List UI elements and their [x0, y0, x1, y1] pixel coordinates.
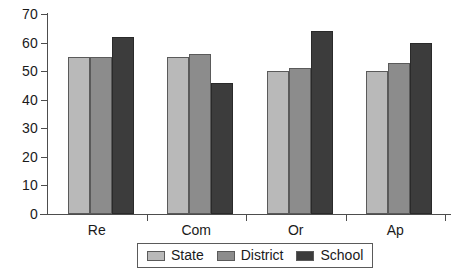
legend-entry-school: School	[296, 248, 363, 263]
bar-com-district	[189, 54, 211, 214]
x-tick-1	[147, 215, 148, 221]
y-tick-label-70: 70	[0, 7, 38, 21]
bar-re-state	[68, 57, 90, 214]
x-tick-3	[346, 215, 347, 221]
x-label-ap: Ap	[346, 222, 446, 238]
bar-com-state	[167, 57, 189, 214]
bar-or-state	[267, 71, 289, 214]
x-tick-4	[445, 215, 446, 221]
x-label-or: Or	[246, 222, 346, 238]
y-tick-label-30: 30	[0, 121, 38, 135]
x-label-com: Com	[147, 222, 247, 238]
bar-ap-state	[366, 71, 388, 214]
y-tick-label-0: 0	[0, 207, 38, 221]
plot-area	[47, 14, 445, 214]
legend-swatch-state	[147, 251, 165, 261]
legend-label-district: District	[241, 248, 284, 263]
legend-entry-district: District	[217, 248, 284, 263]
chart-legend: State District School	[137, 243, 373, 268]
legend-swatch-district	[217, 251, 235, 261]
bar-or-district	[289, 68, 311, 214]
bar-com-school	[211, 83, 233, 214]
bar-re-school	[112, 37, 134, 214]
legend-swatch-school	[296, 251, 314, 261]
bar-chart: 706050403020100 ReComOrAp State District…	[0, 0, 462, 277]
y-tick-label-60: 60	[0, 36, 38, 50]
y-tick-label-40: 40	[0, 93, 38, 107]
y-tick-label-50: 50	[0, 64, 38, 78]
x-label-re: Re	[47, 222, 147, 238]
x-tick-2	[246, 215, 247, 221]
bar-or-school	[311, 31, 333, 214]
y-tick-label-20: 20	[0, 150, 38, 164]
legend-label-state: State	[171, 248, 204, 263]
legend-label-school: School	[320, 248, 363, 263]
legend-entry-state: State	[147, 248, 204, 263]
bar-ap-school	[410, 43, 432, 214]
y-tick-label-10: 10	[0, 178, 38, 192]
bar-re-district	[90, 57, 112, 214]
bar-ap-district	[388, 63, 410, 214]
